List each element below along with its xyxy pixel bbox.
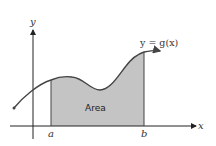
bound-label-a: a <box>48 128 54 139</box>
area-label: Area <box>85 103 106 113</box>
curve-label: y = g(x) <box>139 37 178 48</box>
bound-label-b: b <box>141 128 147 139</box>
y-axis-label: y <box>29 16 36 27</box>
curve-start-dot <box>13 107 16 110</box>
area-diagram: y x a b y = g(x) Area <box>0 0 216 146</box>
x-axis-label: x <box>198 120 204 131</box>
